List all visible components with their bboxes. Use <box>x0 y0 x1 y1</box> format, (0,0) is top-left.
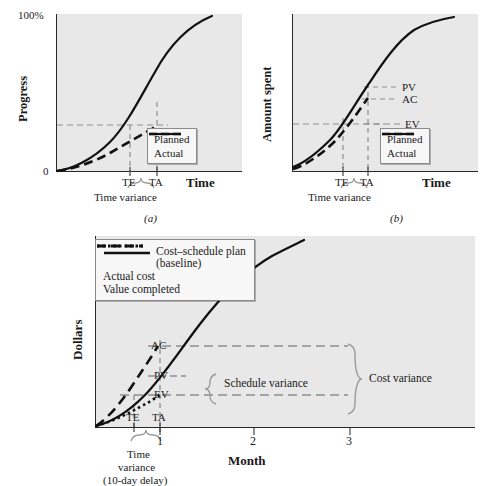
panel-b-value-label-ac: AC <box>402 94 417 105</box>
dotted-line-icon <box>96 240 144 252</box>
panel-c-legend-item-actual-cost: Actual cost <box>103 270 246 282</box>
panel-b-y-axis-label: Amount spent <box>260 67 275 142</box>
panel-a-y-axis-label: Progress <box>16 76 31 122</box>
panel-a-ytick-top: 100% <box>18 10 44 21</box>
panel-c-xtick-2: 2 <box>250 435 256 447</box>
panel-b-caption: (b) <box>390 213 403 224</box>
panel-c-y-axis-label: Dollars <box>70 320 86 360</box>
dashed-line-icon <box>148 129 182 139</box>
panel-c-xtick-3: 3 <box>346 435 352 447</box>
panel-a-legend-label-actual: Actual <box>154 147 183 159</box>
panel-c-x-axis-label: Month <box>228 454 266 467</box>
panel-b-time-variance-label: Time variance <box>308 192 371 203</box>
panel-b-value-label-pv: PV <box>402 82 416 93</box>
panel-c-value-label-ev: EV <box>154 389 169 400</box>
panel-b-xtick-te: TE <box>335 177 348 188</box>
panel-c-marker-te: TE <box>126 412 139 423</box>
panel-b-legend: Planned Actual <box>380 128 430 164</box>
panel-b-x-axis-label: Time <box>422 176 451 189</box>
panel-b: Amount spent PV AC EV TE TA Time Time va… <box>246 0 492 232</box>
panel-a-legend: Planned Actual <box>147 128 197 164</box>
panel-a-x-axis-label: Time <box>186 176 215 189</box>
panel-a: 100% 0 Progress TE TA Time Time variance… <box>0 0 246 232</box>
panel-c-legend: Cost–schedule plan (baseline) Actual cos… <box>95 239 255 301</box>
panel-b-xtick-ta: TA <box>360 177 374 188</box>
dashed-line-icon <box>381 129 415 139</box>
panel-a-legend-item-actual: Actual <box>154 147 189 159</box>
panel-c-legend-label-value-completed: Value completed <box>103 283 180 295</box>
panel-c-marker-ta: TA <box>152 412 166 423</box>
panel-c-legend-label-baseline-line1: Cost–schedule plan <box>156 245 246 257</box>
panel-c-time-variance-line2: variance <box>118 462 155 473</box>
panel-c-xtick-1: 1 <box>157 435 163 447</box>
panel-a-ytick-zero: 0 <box>43 166 49 177</box>
panel-c-legend-item-value-completed: Value completed <box>103 283 246 295</box>
panel-b-legend-item-actual: Actual <box>387 147 422 159</box>
panel-c-cost-variance-label: Cost variance <box>369 373 432 385</box>
panel-a-xtick-ta: TA <box>149 177 163 188</box>
panel-c-legend-label-baseline-line2: (baseline) <box>156 257 246 269</box>
panel-a-time-variance-label: Time variance <box>94 192 157 203</box>
panel-a-caption: (a) <box>144 213 157 224</box>
panel-c-value-label-ac: AC <box>151 340 166 351</box>
panel-c-legend-label-baseline-wrap: Cost–schedule plan (baseline) <box>156 245 246 269</box>
panel-c-time-variance-line1: Time <box>127 449 150 460</box>
panel-c-time-variance-line3: (10-day delay) <box>103 475 167 486</box>
panel-c-legend-label-actual-cost: Actual cost <box>103 270 155 282</box>
panel-a-xtick-te: TE <box>122 177 135 188</box>
panel-c: Dollars AC PV EV TE TA 1 2 3 Month Time … <box>0 232 492 478</box>
panel-b-legend-label-actual: Actual <box>387 147 416 159</box>
panel-c-schedule-variance-label: Schedule variance <box>224 378 308 390</box>
panel-c-value-label-pv: PV <box>154 370 168 381</box>
